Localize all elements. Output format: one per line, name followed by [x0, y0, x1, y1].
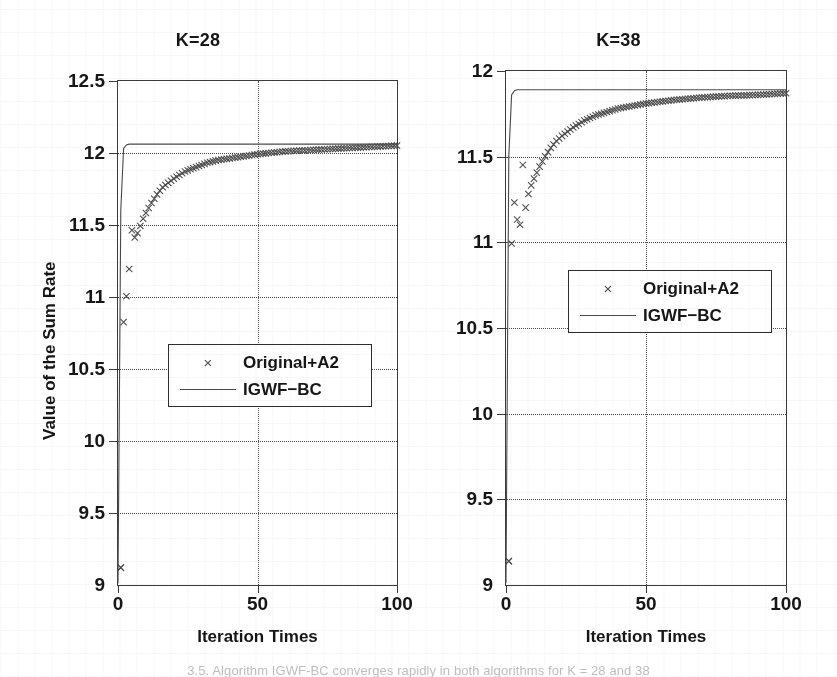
x-tick-label-100: 100: [381, 593, 413, 615]
tick-y-11-r: [497, 242, 506, 243]
x-tick-label-50-r: 50: [635, 593, 656, 615]
tick-y-11: [109, 297, 118, 298]
tick-y-10: [109, 441, 118, 442]
tick-y-10_5-r: [497, 328, 506, 329]
legend-k38: × Original+A2 IGWF−BC: [568, 270, 772, 333]
legend-k28: × Original+A2 IGWF−BC: [168, 344, 372, 407]
y-tick-label-9_5-r: 9.5: [467, 488, 493, 510]
tick-x-50: [258, 585, 259, 593]
legend-row-igwf-bc: IGWF−BC: [177, 376, 361, 403]
tick-y-11_5: [109, 225, 118, 226]
legend-label-igwf-bc-r: IGWF−BC: [643, 306, 722, 326]
y-tick-label-12-r: 12: [472, 60, 493, 82]
y-axis-label-left: Value of the Sum Rate: [40, 261, 60, 440]
y-tick-label-10_5-r: 10.5: [456, 317, 493, 339]
tick-y-9_5-r: [497, 499, 506, 500]
y-tick-label-9_5: 9.5: [79, 502, 105, 524]
tick-x-0: [118, 585, 119, 593]
tick-y-12: [109, 153, 118, 154]
legend-marker-line-icon: [177, 376, 239, 403]
legend-label-original-a2-r: Original+A2: [643, 279, 739, 299]
legend-row-igwf-bc-r: IGWF−BC: [577, 302, 761, 329]
tick-y-12_5: [109, 81, 118, 82]
figure-convergence-plots: K=28 Value of the Sum Rate 12.5 12 11.5 …: [0, 0, 837, 677]
figure-caption: 3.5. Algorithm IGWF-BC converges rapidly…: [0, 663, 837, 677]
y-tick-label-9: 9: [94, 574, 105, 596]
y-tick-label-12_5: 12.5: [68, 70, 105, 92]
tick-x-50-r: [646, 585, 647, 593]
tick-y-11_5-r: [497, 157, 506, 158]
tick-x-100-r: [786, 585, 787, 593]
legend-label-igwf-bc: IGWF−BC: [243, 380, 322, 400]
y-tick-label-10: 10: [84, 430, 105, 452]
x-tick-label-100-r: 100: [770, 593, 802, 615]
tick-x-100: [397, 585, 398, 593]
x-axis-label-left: Iteration Times: [118, 627, 397, 647]
y-tick-label-9-r: 9: [482, 574, 493, 596]
tick-y-10_5: [109, 369, 118, 370]
legend-marker-line-icon-r: [577, 302, 639, 329]
x-tick-label-50: 50: [247, 593, 268, 615]
chart-title-k38: K=38: [418, 30, 837, 51]
y-tick-label-11: 11: [85, 286, 105, 308]
tick-y-9_5: [109, 513, 118, 514]
y-tick-label-11_5-r: 11.5: [457, 146, 493, 168]
legend-marker-cross-icon-r: ×: [577, 275, 639, 302]
chart-panel-k38: K=38 Value of the Sum Rate 12 11.5 11 10…: [418, 0, 837, 677]
x-axis-label-right: Iteration Times: [506, 627, 786, 647]
chart-panel-k28: K=28 Value of the Sum Rate 12.5 12 11.5 …: [0, 0, 420, 677]
tick-y-12-r: [497, 71, 506, 72]
y-tick-label-11-r: 11: [473, 231, 493, 253]
y-tick-label-12: 12: [84, 142, 105, 164]
series-canvas-k28: [118, 81, 397, 583]
tick-y-10-r: [497, 414, 506, 415]
y-tick-label-10_5: 10.5: [68, 358, 105, 380]
tick-x-0-r: [506, 585, 507, 593]
chart-title-k28: K=28: [0, 30, 420, 51]
plot-area-k38: 12 11.5 11 10.5 10 9.5 9 0 50 100 Iterat…: [505, 70, 787, 586]
x-tick-label-0: 0: [113, 593, 124, 615]
plot-area-k28: 12.5 12 11.5 11 10.5 10 9.5 9 0 50 100 I…: [117, 80, 398, 586]
y-tick-label-11_5: 11.5: [69, 214, 105, 236]
legend-label-original-a2: Original+A2: [243, 353, 339, 373]
x-tick-label-0-r: 0: [501, 593, 512, 615]
legend-row-original-a2: × Original+A2: [177, 349, 361, 376]
legend-row-original-a2-r: × Original+A2: [577, 275, 761, 302]
legend-marker-cross-icon: ×: [177, 349, 239, 376]
y-tick-label-10-r: 10: [472, 403, 493, 425]
